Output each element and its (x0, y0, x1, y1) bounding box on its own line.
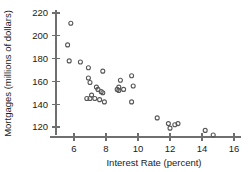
data-point (131, 84, 135, 88)
y-tick-label: 200 (32, 30, 48, 41)
scatter-chart: 1201401601802002206810121416Interest Rat… (0, 0, 250, 172)
y-axis-title: Mortgages (millions of dollars) (2, 10, 13, 137)
data-point (78, 60, 82, 64)
data-point (166, 122, 170, 126)
data-point (118, 78, 122, 82)
x-tick-label: 8 (103, 143, 108, 154)
x-tick-label: 12 (165, 143, 176, 154)
data-point (122, 87, 126, 91)
plot-area: 1201401601802002206810121416Interest Rat… (0, 0, 250, 172)
data-point (203, 128, 207, 132)
data-point (69, 21, 73, 25)
data-point (98, 98, 102, 102)
data-point (88, 81, 92, 85)
data-point (93, 97, 97, 101)
x-tick-label: 10 (133, 143, 144, 154)
x-tick-label: 6 (71, 143, 76, 154)
y-tick-label: 180 (32, 53, 48, 64)
data-point (130, 100, 134, 104)
y-tick-label: 120 (32, 121, 48, 132)
data-point (155, 116, 159, 120)
data-point (168, 126, 172, 130)
data-point (130, 74, 134, 78)
data-point (86, 66, 90, 70)
y-tick-label: 140 (32, 99, 48, 110)
data-point (86, 76, 90, 80)
data-point (102, 100, 106, 104)
x-tick-label: 16 (229, 143, 240, 154)
y-tick-label: 220 (32, 7, 48, 18)
data-point (66, 43, 70, 47)
data-point (101, 69, 105, 73)
x-tick-label: 14 (197, 143, 208, 154)
x-axis-title: Interest Rate (percent) (106, 157, 201, 168)
data-point (67, 59, 71, 63)
y-tick-label: 160 (32, 76, 48, 87)
